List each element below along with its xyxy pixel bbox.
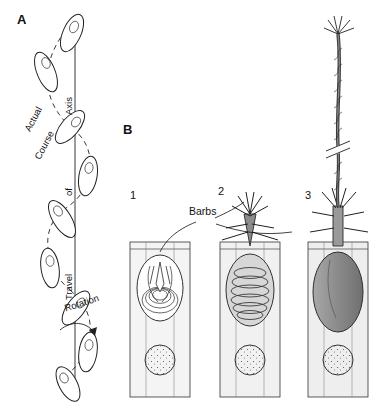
- epithelium-column-2: [220, 192, 280, 397]
- panel-label-a: A: [17, 12, 26, 27]
- panel-b-artwork: [130, 16, 368, 397]
- epithelium-column-1: [130, 242, 190, 397]
- stage-number-2: 2: [218, 185, 224, 197]
- panel-label-b: B: [123, 122, 132, 137]
- label-travel: Travel: [63, 274, 74, 300]
- stage-number-3: 3: [305, 189, 311, 201]
- panel-a-artwork: [30, 11, 101, 405]
- barbs-label: Barbs: [189, 205, 216, 217]
- stage-number-1: 1: [130, 189, 136, 201]
- figure-artwork: [0, 0, 376, 417]
- label-axis: Axis: [63, 97, 74, 115]
- figure-container: A B Actual Course Axis of Travel Rotatio…: [0, 0, 376, 417]
- epithelium-column-3: [308, 16, 368, 397]
- label-of: of: [63, 188, 74, 196]
